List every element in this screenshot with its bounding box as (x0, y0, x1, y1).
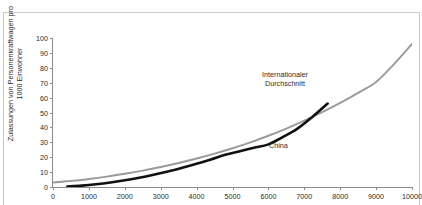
y-tick-label: 50 (40, 108, 48, 117)
x-tick-mark (53, 187, 54, 190)
y-tick-mark (50, 142, 53, 143)
x-tick-mark (233, 187, 234, 190)
x-tick-label: 5000 (225, 192, 241, 201)
y-tick-label: 30 (40, 138, 48, 147)
y-tick-label: 100 (36, 34, 48, 43)
x-tick-mark (376, 187, 377, 190)
y-tick-mark (50, 38, 53, 39)
y-tick-label: 90 (40, 48, 48, 57)
figure-frame: Zulassungen von Personenkraftwagen pro 1… (3, 12, 420, 205)
x-tick-label: 6000 (260, 192, 276, 201)
y-tick-mark (50, 53, 53, 54)
y-tick-label: 70 (40, 78, 48, 87)
x-tick-mark (125, 187, 126, 190)
x-tick-label: 4000 (189, 192, 205, 201)
series-annotation-internationaler-durchschnitt: Internationaler Durchschnitt (246, 71, 324, 89)
x-tick-label: 10000 (402, 192, 422, 201)
y-tick-label: 80 (40, 63, 48, 72)
x-tick-mark (89, 187, 90, 190)
y-tick-label: 0 (44, 183, 48, 192)
x-tick-mark (340, 187, 341, 190)
x-tick-label: 3000 (153, 192, 169, 201)
x-tick-label: 8000 (332, 192, 348, 201)
x-tick-mark (268, 187, 269, 190)
y-tick-mark (50, 68, 53, 69)
x-tick-mark (197, 187, 198, 190)
x-tick-label: 1000 (81, 192, 97, 201)
y-tick-mark (50, 98, 53, 99)
x-tick-mark (304, 187, 305, 190)
y-tick-mark (50, 157, 53, 158)
clipped-caption-strip: Abbildung: Pkw-Dichte und Pro-Kopf-Einko… (0, 0, 422, 11)
x-tick-label: 0 (51, 192, 55, 201)
series-annotation-china: China (269, 142, 309, 151)
x-tick-label: 9000 (368, 192, 384, 201)
y-tick-mark (50, 83, 53, 84)
y-tick-label: 60 (40, 93, 48, 102)
y-tick-label: 10 (40, 168, 48, 177)
chart-canvas (53, 38, 412, 187)
plot-area: Internationaler Durchschnitt China 01020… (52, 38, 412, 188)
series-line-internationaler-durchschnitt (53, 44, 412, 183)
y-tick-label: 20 (40, 153, 48, 162)
x-tick-label: 2000 (117, 192, 133, 201)
y-tick-label: 40 (40, 123, 48, 132)
x-tick-label: 7000 (296, 192, 312, 201)
y-axis-title: Zulassungen von Personenkraftwagen pro 1… (7, 0, 24, 148)
y-tick-mark (50, 127, 53, 128)
y-tick-mark (50, 172, 53, 173)
x-tick-mark (412, 187, 413, 190)
x-tick-mark (161, 187, 162, 190)
y-tick-mark (50, 113, 53, 114)
